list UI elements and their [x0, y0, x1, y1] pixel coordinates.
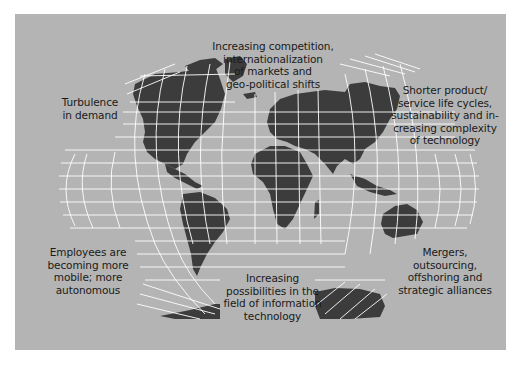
annotation-line: sustainability and in-	[390, 109, 500, 122]
annotation-line: autonomous	[38, 284, 138, 297]
annotation-line: Increasing	[220, 272, 325, 285]
annotation-line: Turbulence	[50, 96, 130, 109]
annotation-top-left: Turbulence in demand	[50, 96, 130, 121]
annotation-bottom-left: Employees are becoming more mobile; more…	[38, 246, 138, 296]
annotation-bottom-right: Mergers, outsourcing, offshoring and str…	[395, 246, 495, 296]
annotation-line: internationalization	[198, 53, 348, 66]
diagram-panel: Increasing competition, internationaliza…	[15, 14, 506, 350]
annotation-line: geo-political shifts	[198, 78, 348, 91]
indonesia-shape	[350, 174, 397, 196]
annotation-line: creasing complexity	[390, 122, 500, 135]
south-america-shape	[180, 192, 230, 276]
madagascar-shape	[314, 200, 319, 219]
annotation-bottom-center: Increasing possibilities in the field of…	[220, 272, 325, 322]
annotation-line: mobile; more	[38, 271, 138, 284]
annotation-top-center: Increasing competition, internationaliza…	[198, 40, 348, 90]
annotation-line: field of information	[220, 297, 325, 310]
africa-shape	[251, 146, 313, 229]
annotation-top-right: Shorter product/ service life cycles, su…	[390, 84, 500, 147]
annotation-line: Increasing competition,	[198, 40, 348, 53]
annotation-line: technology	[220, 310, 325, 323]
annotation-line: in demand	[50, 109, 130, 122]
annotation-line: offshoring and	[395, 271, 495, 284]
annotation-line: service life cycles,	[390, 97, 500, 110]
annotation-line: Shorter product/	[390, 84, 500, 97]
annotation-line: possibilities in the	[220, 285, 325, 298]
annotation-line: of technology	[390, 134, 500, 147]
annotation-line: becoming more	[38, 259, 138, 272]
annotation-line: of markets and	[198, 65, 348, 78]
annotation-line: strategic alliances	[395, 284, 495, 297]
annotation-line: Mergers,	[395, 246, 495, 259]
annotation-line: outsourcing,	[395, 259, 495, 272]
central-america-shape	[165, 164, 203, 189]
annotation-line: Employees are	[38, 246, 138, 259]
